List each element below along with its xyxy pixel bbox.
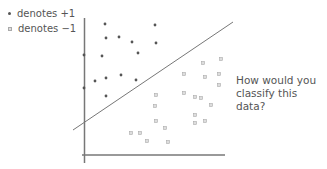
- negative-point: [183, 73, 186, 76]
- negative-point: [220, 58, 223, 61]
- negative-point: [200, 97, 203, 100]
- negative-point: [130, 132, 133, 135]
- positive-point: [83, 87, 86, 90]
- negative-point: [154, 105, 157, 108]
- negative-point: [155, 94, 158, 97]
- positive-point: [135, 79, 138, 82]
- negative-points: [130, 58, 223, 144]
- positive-point: [83, 54, 86, 57]
- positive-point: [131, 41, 134, 44]
- positive-point: [104, 23, 107, 26]
- negative-point: [218, 84, 221, 87]
- positive-point: [118, 36, 121, 39]
- question-line-1: How would you: [236, 74, 326, 87]
- negative-point: [155, 120, 158, 123]
- negative-point: [167, 141, 170, 144]
- positive-point: [137, 52, 140, 55]
- positive-point: [105, 95, 108, 98]
- negative-point: [164, 127, 167, 130]
- negative-point: [202, 62, 205, 65]
- negative-point: [210, 104, 213, 107]
- positive-point: [154, 24, 157, 27]
- negative-point: [146, 140, 149, 143]
- negative-point: [194, 122, 197, 125]
- negative-point: [204, 76, 207, 79]
- positive-point: [155, 42, 158, 45]
- positive-point: [94, 80, 97, 83]
- positive-point: [101, 55, 104, 58]
- positive-point: [105, 37, 108, 40]
- positive-points: [83, 23, 158, 98]
- question-line-2: classify this data?: [236, 87, 326, 113]
- separator-line: [73, 22, 233, 130]
- negative-point: [194, 96, 197, 99]
- question-text: How would you classify this data?: [236, 74, 326, 113]
- negative-point: [204, 120, 207, 123]
- negative-point: [183, 92, 186, 95]
- negative-point: [139, 132, 142, 135]
- negative-point: [194, 114, 197, 117]
- positive-point: [105, 77, 108, 80]
- negative-point: [218, 73, 221, 76]
- positive-point: [120, 74, 123, 77]
